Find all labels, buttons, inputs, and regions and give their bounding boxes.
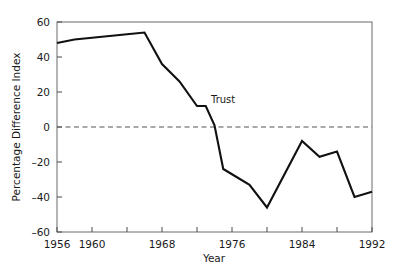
x-tick-label: 1984: [289, 238, 316, 250]
annotation-trust: Trust: [210, 94, 235, 105]
y-tick-label: –40: [31, 191, 50, 203]
y-tick-label: 0: [43, 121, 50, 133]
y-tick-label: –20: [31, 156, 50, 168]
x-tick-label: 1968: [149, 238, 176, 250]
data-line-trust: [57, 33, 372, 208]
chart-figure: –60–40–200204060 19561960196819761984199…: [0, 0, 414, 276]
y-axis-title: Percentage Difference Index: [10, 53, 22, 202]
y-tick-label: 60: [37, 16, 50, 28]
x-tick-label: 1976: [219, 238, 246, 250]
x-axis-tick-labels: 195619601968197619841992: [44, 238, 386, 250]
x-tick-label: 1960: [79, 238, 106, 250]
y-tick-label: 20: [37, 86, 50, 98]
x-axis-title: Year: [202, 252, 226, 264]
x-tick-label: 1956: [44, 238, 71, 250]
line-chart: –60–40–200204060 19561960196819761984199…: [0, 0, 414, 276]
x-tick-label: 1992: [359, 238, 386, 250]
y-tick-label: –60: [31, 226, 50, 238]
y-axis-tick-labels: –60–40–200204060: [31, 16, 50, 238]
y-tick-label: 40: [37, 51, 50, 63]
x-axis-ticks: [57, 227, 372, 232]
